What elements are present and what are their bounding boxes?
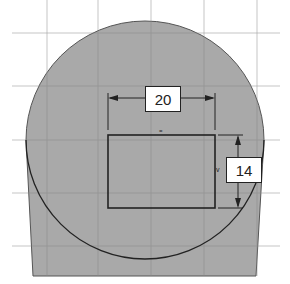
width-dimension-value[interactable]: 20 (145, 86, 181, 112)
sketch-canvas[interactable]: = v 20 14 (0, 0, 290, 284)
sketch-drawing: = v (0, 0, 290, 284)
vertical-constraint-icon: v (216, 166, 220, 173)
horizontal-constraint-icon: = (159, 128, 163, 134)
height-dimension-value[interactable]: 14 (226, 157, 262, 183)
profile-shape[interactable] (26, 21, 264, 276)
